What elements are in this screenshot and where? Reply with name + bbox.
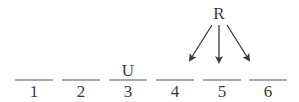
slot-number-1: 1 — [24, 83, 44, 100]
slot-number-2: 2 — [71, 83, 91, 100]
arrows — [190, 25, 249, 62]
arrow-to-6 — [227, 25, 249, 60]
slot-number-3: 3 — [118, 83, 138, 100]
slot-number-6: 6 — [258, 83, 278, 100]
slot-number-5: 5 — [212, 83, 232, 100]
diagram-canvas — [0, 0, 299, 102]
slot-above-label-3: U — [118, 62, 138, 79]
slot-number-4: 4 — [165, 83, 185, 100]
source-label: R — [209, 5, 229, 22]
arrow-to-4 — [190, 25, 212, 60]
